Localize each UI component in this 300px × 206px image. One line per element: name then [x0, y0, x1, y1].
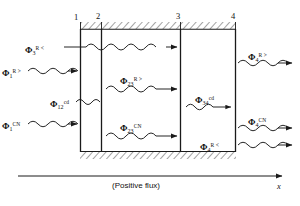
- label-phi-3-R-less: Φ3R <: [25, 40, 44, 56]
- arrow-phi-1-CN: [28, 121, 78, 127]
- label-phi-1-CN: Φ1CN: [2, 116, 20, 132]
- label-phi-23-R-greater: Φ23R >: [120, 71, 142, 87]
- label-phi-1-R-greater: Φ1R >: [2, 63, 21, 79]
- phi-superscript: R <: [36, 45, 44, 51]
- phi-superscript: CN: [259, 117, 267, 123]
- label-phi-34-cd: Φ34cd: [195, 90, 214, 106]
- arrow-phi-12-cd: [76, 100, 100, 105]
- phi-superscript: R >: [134, 76, 142, 82]
- positive-flux-caption: (Positive flux): [112, 181, 160, 190]
- diagram-canvas: [0, 0, 300, 206]
- wall-number-3: 3: [176, 11, 180, 21]
- phi-superscript: R <: [211, 142, 219, 148]
- label-phi-12-cd: Φ12cd: [50, 94, 69, 110]
- axis-variable-x: x: [277, 181, 281, 191]
- phi-superscript: CN: [13, 121, 21, 127]
- phi-superscript: CN: [134, 123, 142, 129]
- phi-superscript: cd: [209, 95, 214, 101]
- phi-superscript: R >: [13, 68, 21, 74]
- wall-number-4: 4: [231, 11, 235, 21]
- top-hatch-band: [80, 22, 236, 29]
- flux-diagram: 1 2 3 4 Φ3R < Φ1R > Φ12cd Φ1CN Φ23R > Φ2…: [0, 0, 300, 206]
- wall-number-1: 1: [74, 12, 78, 22]
- phi-superscript: cd: [64, 99, 69, 105]
- arrow-phi-4-R-less: [238, 142, 292, 148]
- label-phi-4-CN: Φ4CN: [248, 112, 266, 128]
- label-phi-4-R-less: Φ4R <: [200, 137, 219, 153]
- label-phi-4-R-greater: Φ4R >: [248, 47, 267, 63]
- label-phi-23-CN: Φ23CN: [120, 118, 142, 134]
- phi-superscript: R >: [259, 52, 267, 58]
- wall-number-2: 2: [96, 11, 100, 21]
- arrow-phi-1-R-greater: [28, 68, 78, 74]
